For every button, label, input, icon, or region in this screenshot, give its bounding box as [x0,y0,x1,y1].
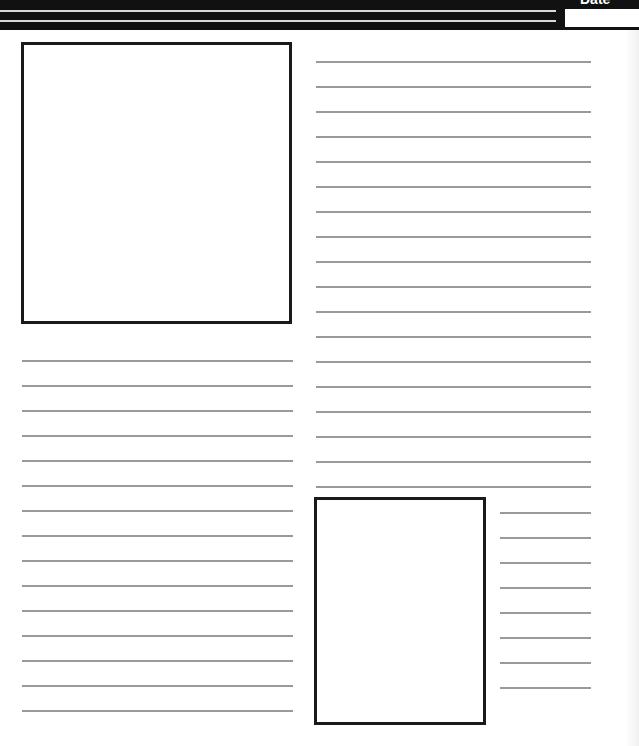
writing-line[interactable] [22,710,293,712]
writing-line[interactable] [22,410,293,412]
writing-line[interactable] [22,535,293,537]
writing-line[interactable] [22,685,293,687]
writing-line[interactable] [500,687,591,689]
writing-line[interactable] [316,411,591,413]
writing-line[interactable] [22,635,293,637]
page-edge-shadow [625,30,639,746]
image-box-bottom[interactable] [314,497,486,725]
writing-line[interactable] [500,637,591,639]
date-field[interactable] [565,9,639,27]
writing-line[interactable] [500,587,591,589]
writing-line[interactable] [22,510,293,512]
writing-line[interactable] [500,662,591,664]
writing-line[interactable] [316,186,591,188]
writing-line[interactable] [316,436,591,438]
writing-line[interactable] [316,286,591,288]
writing-line[interactable] [22,385,293,387]
writing-line[interactable] [22,460,293,462]
header-band: Date [0,0,639,30]
writing-line[interactable] [22,610,293,612]
writing-line[interactable] [316,161,591,163]
writing-line[interactable] [22,435,293,437]
writing-line[interactable] [316,361,591,363]
writing-line[interactable] [500,562,591,564]
writing-line[interactable] [22,560,293,562]
writing-line[interactable] [316,111,591,113]
date-label: Date [580,0,610,6]
writing-line[interactable] [316,236,591,238]
writing-line[interactable] [316,486,591,488]
writing-line[interactable] [500,512,591,514]
writing-line[interactable] [316,86,591,88]
header-divider [0,28,639,30]
writing-line[interactable] [22,485,293,487]
writing-line[interactable] [316,336,591,338]
header-stripe [0,20,556,22]
writing-line[interactable] [500,537,591,539]
writing-line[interactable] [500,612,591,614]
writing-line[interactable] [22,360,293,362]
writing-line[interactable] [316,261,591,263]
writing-line[interactable] [22,660,293,662]
writing-line[interactable] [316,311,591,313]
writing-line[interactable] [316,136,591,138]
writing-line[interactable] [316,61,591,63]
writing-line[interactable] [316,461,591,463]
writing-line[interactable] [316,386,591,388]
writing-line[interactable] [22,585,293,587]
writing-line[interactable] [316,211,591,213]
header-stripe [0,10,556,12]
image-box-top-left[interactable] [21,42,292,324]
